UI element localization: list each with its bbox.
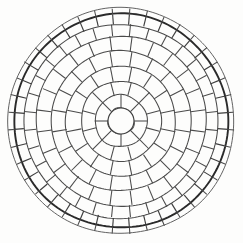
- radial-joint-ring-5-18: [36, 110, 51, 112]
- radial-joint-ring-4-18: [89, 58, 96, 72]
- radial-joint-rim-band-4: [191, 35, 195, 39]
- radial-joint-ring-6-17: [93, 203, 96, 214]
- radial-joint-ring-6-4: [187, 59, 197, 67]
- radial-joint-ring-3-10: [76, 143, 88, 151]
- radial-joint-ring-2-5: [128, 147, 132, 160]
- radial-joint-ring-3-8: [110, 160, 113, 174]
- radial-joint-ring-7-35: [51, 40, 58, 48]
- radial-joint-rim-band-15: [191, 203, 195, 207]
- radial-joint-ring-6-13: [161, 196, 167, 207]
- radial-joint-ring-6-19: [59, 187, 67, 197]
- radial-joint-ring-4-19: [110, 52, 112, 67]
- radial-joint-ring-3-1: [143, 75, 151, 87]
- radial-joint-ring-2-3: [146, 128, 160, 132]
- radial-joint-ring-3-9: [90, 154, 99, 167]
- radial-joint-ring-5-23: [110, 36, 112, 51]
- radial-joint-ring-6-24: [24, 111, 36, 112]
- radial-joint-rim-band-32: [17, 78, 22, 80]
- radial-joint-rim-band-22: [78, 220, 80, 225]
- radial-joint-ring-7-23: [65, 203, 70, 212]
- radial-joint-rim-band-36: [62, 25, 65, 30]
- radial-joint-ring-4-4: [175, 110, 190, 112]
- radial-joint-ring-6-0: [129, 24, 130, 36]
- radial-joint-ring-6-21: [36, 161, 46, 166]
- radial-joint-ring-7-3: [172, 29, 177, 38]
- radial-joint-ring-1-3: [130, 130, 139, 139]
- radial-joint-rim-band-35: [48, 35, 52, 40]
- radial-joint-ring-7-21: [96, 215, 98, 225]
- radial-joint-ring-4-8: [146, 170, 153, 183]
- radial-joint-ring-3-13: [75, 91, 87, 99]
- radial-joint-rim-band-38: [95, 11, 96, 17]
- radial-joint-ring-7-15: [184, 195, 190, 202]
- radial-joint-ring-6-27: [46, 59, 55, 66]
- radial-joint-ring-2-10: [92, 92, 102, 102]
- radial-joint-rim-band-6: [213, 62, 218, 65]
- radial-joint-ring-7-30: [15, 113, 25, 114]
- radial-joint-ring-7-18: [144, 215, 146, 224]
- radial-joint-ring-3-0: [129, 67, 132, 82]
- radial-joint-ring-6-10: [196, 161, 207, 167]
- hub-group: [108, 108, 134, 134]
- radial-joint-ring-7-28: [17, 144, 27, 146]
- radial-joint-ring-7-10: [218, 129, 228, 130]
- radial-joint-ring-3-14: [90, 75, 99, 88]
- radial-joint-ring-6-25: [29, 93, 40, 96]
- radial-joint-ring-7-38: [96, 17, 98, 27]
- radial-joint-ring-7-33: [29, 65, 38, 70]
- radial-joint-ring-4-6: [170, 146, 183, 153]
- radial-joint-ring-6-30: [93, 29, 96, 40]
- radial-joint-ring-4-2: [160, 71, 171, 82]
- radial-joint-ring-7-14: [194, 184, 202, 191]
- radial-joint-ring-7-2: [158, 23, 162, 32]
- radial-joint-ring-4-16: [59, 89, 72, 96]
- radial-joint-ring-5-11: [130, 191, 132, 205]
- radial-joint-ring-2-4: [139, 139, 149, 149]
- center-hub-circle: [108, 108, 134, 134]
- radial-joint-rim-band-19: [129, 227, 130, 233]
- radial-joint-ring-7-34: [40, 52, 47, 58]
- radial-joint-rim-band-3: [177, 24, 180, 29]
- radial-joint-ring-5-20: [53, 69, 65, 78]
- radial-joint-ring-7-9: [217, 113, 227, 114]
- radial-joint-ring-6-12: [175, 187, 182, 196]
- radial-joint-ring-7-20: [113, 218, 114, 227]
- radial-joint-ring-5-9: [163, 176, 172, 188]
- radial-joint-ring-4-13: [59, 146, 72, 153]
- radial-joint-rim-band-14: [202, 190, 207, 194]
- radial-joint-ring-6-14: [146, 202, 150, 214]
- radial-joint-ring-2-0: [128, 83, 131, 96]
- radial-joint-ring-6-1: [146, 28, 150, 40]
- radial-joint-ring-6-3: [175, 46, 182, 55]
- radial-joint-ring-5-6: [190, 130, 204, 132]
- radial-joint-ring-2-7: [93, 139, 103, 149]
- radial-joint-ring-5-7: [185, 148, 199, 154]
- radial-joint-ring-7-13: [204, 172, 212, 177]
- radial-joint-ring-4-0: [130, 52, 132, 66]
- radial-joint-ring-5-15: [53, 164, 65, 173]
- radial-joint-rim-band-31: [11, 95, 17, 96]
- radial-joint-ring-6-18: [75, 196, 81, 207]
- radial-joint-ring-2-9: [83, 111, 96, 115]
- radial-joint-ring-5-8: [177, 164, 189, 173]
- radial-joint-ring-6-8: [206, 129, 218, 130]
- radial-joint-ring-3-3: [160, 110, 174, 113]
- radial-joint-ring-6-26: [36, 75, 46, 80]
- radial-joint-ring-5-5: [191, 110, 206, 112]
- radial-joint-ring-7-32: [23, 80, 32, 84]
- radial-joint-ring-3-15: [110, 67, 113, 81]
- diagram-canvas: [0, 0, 243, 243]
- radial-joint-ring-2-11: [111, 82, 115, 96]
- radial-joint-rim-band-13: [213, 177, 218, 180]
- radial-joint-ring-6-2: [161, 36, 166, 46]
- radial-joint-ring-3-2: [154, 90, 167, 99]
- radial-joint-rim-band-18: [146, 225, 147, 230]
- radial-joint-ring-6-23: [24, 129, 36, 130]
- radial-joint-ring-3-4: [161, 129, 176, 132]
- radial-joint-ring-4-5: [175, 130, 190, 132]
- radial-joint-ring-7-12: [210, 158, 220, 162]
- radial-joint-ring-5-0: [130, 36, 132, 51]
- radial-joint-rim-band-24: [47, 203, 51, 208]
- radial-joint-ring-5-22: [89, 43, 95, 57]
- radial-paving-pattern: [0, 0, 243, 243]
